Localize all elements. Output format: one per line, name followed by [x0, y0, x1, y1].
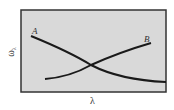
x-axis-label: λ — [90, 95, 95, 106]
y-axis-label: ωλ — [5, 47, 17, 57]
y-axis-label-group: ωλ — [5, 47, 17, 57]
curve-a-label: A — [31, 26, 38, 36]
curve-b-label: B — [144, 34, 150, 44]
crossing-curves-diagram: A B λ ωλ — [0, 0, 174, 110]
